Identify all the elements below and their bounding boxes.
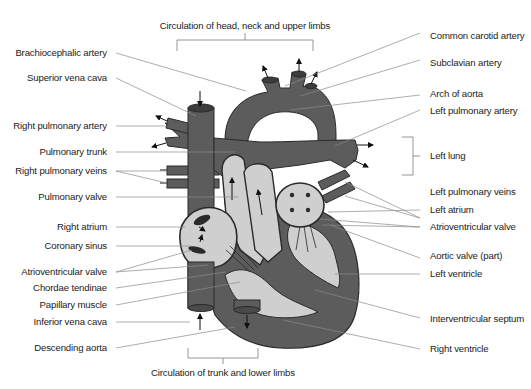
label-chordae-tendinae: Chordae tendinae [33,282,107,293]
label-pulmonary-valve: Pulmonary valve [38,191,107,202]
label-superior-vena-cava: Superior vena cava [27,72,107,83]
label-arch-of-aorta: Arch of aorta [430,88,483,99]
label-left-atrium: Left atrium [430,204,474,215]
label-subclavian-artery: Subclavian artery [430,57,502,68]
label-right-atrium: Right atrium [57,221,107,232]
label-left-pulmonary-artery: Left pulmonary artery [430,105,518,116]
inferior-vena-cava-shape [188,262,214,312]
label-common-carotid-artery: Common carotid artery [430,30,524,41]
left-atrium-shape [276,183,324,227]
label-left-pulmonary-veins: Left pulmonary veins [430,186,516,197]
left-lung-bracket [402,137,420,175]
top-bracket [177,33,313,51]
top-caption: Circulation of head, neck and upper limb… [160,20,330,31]
label-interventricular-septum: Interventricular septum [430,313,524,324]
label-pulmonary-trunk: Pulmonary trunk [39,146,107,157]
label-right-pulmonary-veins: Right pulmonary veins [15,165,107,176]
label-right-ventricle: Right ventricle [430,343,489,354]
heart-diagram: Circulation of head, neck and upper limb… [0,0,531,389]
bottom-bracket [188,348,258,364]
label-papillary-muscle: Papillary muscle [40,299,107,310]
label-aortic-valve-part: Aortic valve (part) [430,250,502,261]
bottom-caption: Circulation of trunk and lower limbs [151,367,295,378]
label-brachiocephalic-artery: Brachiocephalic artery [15,47,107,58]
descending-aorta-shape [234,300,260,314]
label-coronary-sinus: Coronary sinus [45,240,107,251]
label-right-pulmonary-artery: Right pulmonary artery [13,120,107,131]
label-atrioventricular-valve-left: Atrioventricular valve [430,221,516,232]
label-descending-aorta: Descending aorta [34,342,107,353]
label-left-ventricle: Left ventricle [430,268,482,279]
label-left-lung: Left lung [430,150,465,161]
label-inferior-vena-cava: Inferior vena cava [33,316,107,327]
right-atrium-shape [180,208,237,269]
label-atrioventricular-valve-right: Atrioventricular valve [21,266,107,277]
